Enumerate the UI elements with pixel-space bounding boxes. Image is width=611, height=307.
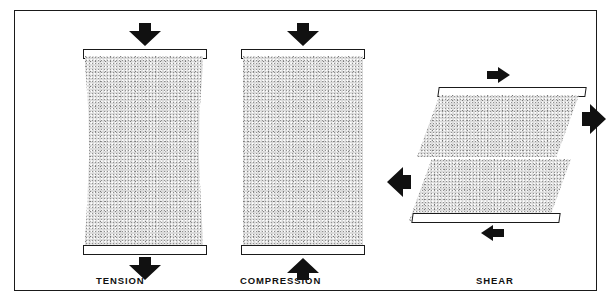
label-compression: COMPRESSION [240, 275, 321, 286]
tension-specimen [85, 56, 203, 248]
compression-arrow-top-icon [286, 23, 320, 47]
shear-arrow-right-icon [581, 103, 607, 135]
tension-platen-bottom [83, 245, 207, 255]
shear-arrow-bottom-icon [481, 224, 505, 242]
stress-types-figure: TENSION COMPRESSION [0, 0, 611, 307]
shear-specimen-upper [417, 95, 579, 157]
compression-specimen [243, 56, 363, 248]
compression-platen-bottom [241, 245, 365, 255]
label-shear: SHEAR [476, 275, 514, 286]
figure-frame: TENSION COMPRESSION [14, 10, 597, 291]
shear-specimen-lower [409, 159, 571, 221]
tension-arrow-top-icon [128, 23, 162, 47]
shear-arrow-left-icon [386, 166, 412, 198]
shear-platen-bottom [411, 213, 560, 223]
label-tension: TENSION [96, 275, 145, 286]
shear-arrow-top-icon [487, 66, 511, 84]
